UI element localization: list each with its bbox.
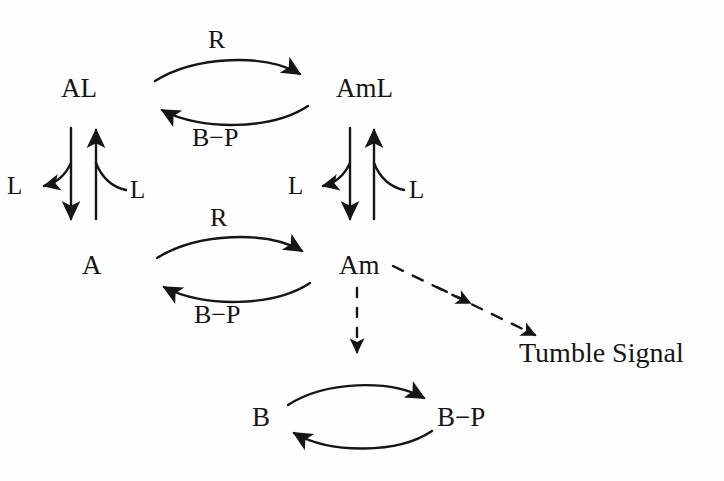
edge-a-to-am-arrow — [157, 237, 302, 258]
edge-aml-release-l-curve — [323, 163, 350, 186]
reaction-scheme-diagram: AL AmL A Am B B−P R B−P R B−P L L L L Tu… — [0, 0, 724, 481]
state-label-am: Am — [339, 252, 380, 279]
edge-am-bind-l-curve — [374, 163, 404, 190]
state-label-a: A — [82, 252, 102, 279]
ligand-label-left-unbind: L — [7, 173, 22, 198]
edge-label-middle-forward: R — [210, 205, 227, 231]
edge-label-middle-reverse: B−P — [194, 302, 240, 328]
edge-al-release-l-curve — [44, 163, 71, 186]
edge-bp-to-b-arrow — [294, 431, 432, 449]
edge-label-top-reverse: B−P — [192, 125, 238, 151]
ligand-label-right-unbind: L — [288, 173, 303, 198]
state-label-b: B — [252, 404, 270, 431]
edge-a-bind-l-curve — [96, 163, 126, 190]
ligand-label-right-bind: L — [409, 177, 424, 202]
edge-b-to-bp-arrow — [288, 385, 424, 405]
state-label-b-p-bottom: B−P — [437, 404, 485, 431]
output-label-tumble-signal: Tumble Signal — [519, 339, 684, 367]
state-label-al: AL — [61, 75, 97, 102]
state-label-aml: AmL — [336, 75, 393, 102]
edge-label-top-forward: R — [208, 27, 225, 53]
edge-al-to-aml-arrow — [155, 60, 300, 81]
ligand-label-left-bind: L — [130, 177, 145, 202]
